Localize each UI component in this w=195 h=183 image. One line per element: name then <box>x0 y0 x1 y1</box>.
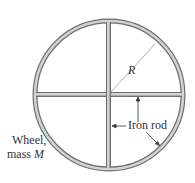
mass-text: mass <box>7 147 34 161</box>
vertical-spoke <box>106 22 111 168</box>
mass-variable: M <box>34 147 44 161</box>
wheel-label-line2: mass M <box>7 148 44 161</box>
radius-label: R <box>128 64 135 77</box>
iron-rod-label: Iron rod <box>128 119 167 132</box>
wheel-diagram: R Iron rod Wheel, mass M <box>0 0 195 183</box>
wheel-label-line1: Wheel, <box>12 134 46 147</box>
